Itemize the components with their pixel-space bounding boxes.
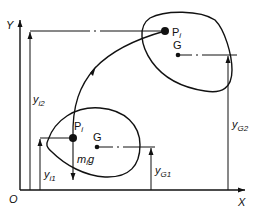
- upper-g-label: G: [173, 39, 182, 51]
- kinematics-diagram: Y X O Pi G Pi G mig yi2 yi1 yG2 yG1: [0, 0, 257, 212]
- weight-label: mig: [77, 153, 95, 167]
- lower-g-label: G: [93, 131, 102, 143]
- trajectory-arrow-icon: [90, 66, 96, 76]
- y-axis-label: Y: [6, 19, 14, 31]
- lower-pi-label: Pi: [74, 120, 83, 134]
- x-axis-label: X: [237, 196, 246, 208]
- upper-pi-label: Pi: [172, 26, 181, 40]
- upper-body-outline: [142, 12, 232, 92]
- yg1-label: yG1: [154, 164, 171, 179]
- yi2-label: yi2: [32, 93, 45, 108]
- yi1-label: yi1: [43, 168, 56, 183]
- trajectory-curve: [73, 31, 165, 138]
- yg2-label: yG2: [231, 118, 249, 133]
- origin-label: O: [9, 193, 18, 205]
